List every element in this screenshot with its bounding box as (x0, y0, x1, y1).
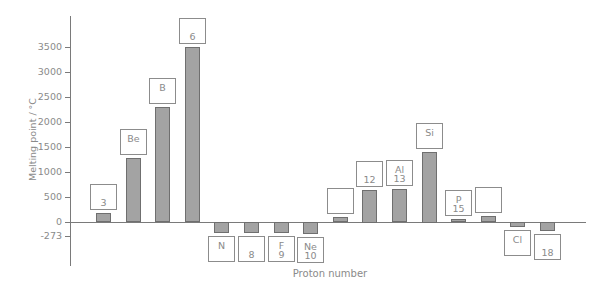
x-axis-label: Proton number (270, 268, 390, 279)
y-tick-label: 1500 (22, 142, 62, 152)
element-label-box: F9 (268, 236, 295, 262)
bar (274, 222, 289, 233)
y-tick (65, 97, 70, 98)
bar (185, 47, 200, 222)
bar (96, 213, 111, 222)
bar (392, 189, 407, 222)
proton-number: 9 (269, 249, 294, 260)
element-label-box: Ne10 (297, 237, 324, 263)
bar (510, 222, 525, 227)
bar (303, 222, 318, 234)
y-tick-label: 2000 (22, 117, 62, 127)
element-label-box (327, 188, 354, 214)
element-symbol: Cl (505, 234, 530, 245)
proton-number: 3 (91, 197, 116, 208)
y-tick (65, 122, 70, 123)
bar (362, 190, 377, 223)
proton-number: 8 (239, 249, 264, 260)
element-label-box: 18 (534, 234, 561, 260)
y-tick (65, 236, 70, 237)
element-label-box: Be (120, 129, 147, 155)
element-symbol: B (150, 82, 175, 93)
y-tick-label: 3000 (22, 67, 62, 77)
element-label-box: 6 (179, 18, 206, 44)
element-label-box: Cl (504, 230, 531, 256)
x-axis-line (70, 222, 586, 223)
proton-number: 13 (387, 173, 412, 184)
y-axis-line (70, 16, 71, 266)
bar (126, 158, 141, 222)
y-tick-label: -273 (22, 231, 62, 241)
proton-number: 12 (357, 174, 382, 185)
element-symbol: Be (121, 133, 146, 144)
element-label-box: P15 (445, 190, 472, 216)
y-tick (65, 222, 70, 223)
y-tick-label: 0 (22, 217, 62, 227)
element-label-box: 12 (356, 161, 383, 187)
element-symbol: Si (417, 127, 442, 138)
element-label-box: 8 (238, 236, 265, 262)
bar (451, 219, 466, 222)
proton-number: 18 (535, 247, 560, 258)
bar (155, 107, 170, 222)
bar (540, 222, 555, 231)
y-tick (65, 172, 70, 173)
proton-number: 15 (446, 203, 471, 214)
element-label-box (475, 187, 502, 213)
element-label-box: 3 (90, 184, 117, 210)
element-label-box: N (208, 236, 235, 262)
element-label-box: B (149, 78, 176, 104)
element-label-box: Al13 (386, 160, 413, 186)
y-tick (65, 47, 70, 48)
y-tick-label: 500 (22, 192, 62, 202)
y-tick (65, 197, 70, 198)
y-tick-label: 3500 (22, 42, 62, 52)
proton-number: 10 (298, 250, 323, 261)
element-symbol: N (209, 240, 234, 251)
element-label-box: Si (416, 123, 443, 149)
melting-point-bar-chart: Melting point / °C Proton number 3500300… (0, 0, 608, 292)
bar (333, 217, 348, 222)
y-tick-label: 1000 (22, 167, 62, 177)
y-tick (65, 72, 70, 73)
bar (422, 152, 437, 223)
bar (214, 222, 229, 233)
bar (481, 216, 496, 222)
bar (244, 222, 259, 233)
proton-number: 6 (180, 31, 205, 42)
y-tick (65, 147, 70, 148)
y-tick-label: 2500 (22, 92, 62, 102)
